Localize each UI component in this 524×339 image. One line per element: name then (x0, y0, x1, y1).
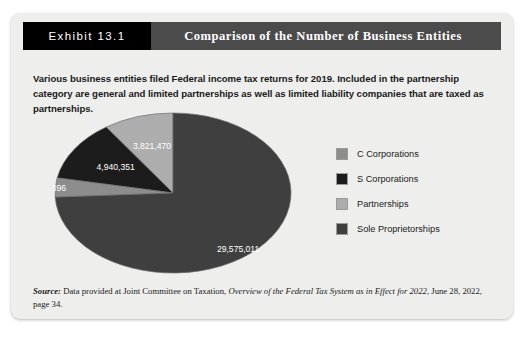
exhibit-title: Comparison of the Number of Business Ent… (184, 29, 462, 44)
pie-legend: C Corporations S Corporations Partnershi… (336, 141, 501, 241)
legend-item-s-corporations[interactable]: S Corporations (336, 166, 501, 191)
pie-slice-value-partnerships: 3,821,470 (133, 141, 171, 151)
legend-swatch-c-corporations (336, 148, 348, 160)
pie-slice-value-s-corporations: 4,940,351 (97, 162, 135, 172)
exhibit-number-label: Exhibit 13.1 (49, 30, 126, 42)
legend-label-partnerships: Partnerships (357, 199, 409, 209)
source-note-publication-title: Overview of the Federal Tax System as in… (228, 286, 427, 296)
legend-label-c-corporations: C Corporations (357, 149, 419, 159)
pie-chart-svg: 3,821,4704,940,3511,533,39629,575,011 (53, 111, 323, 276)
pie-chart: 3,821,4704,940,3511,533,39629,575,011 (53, 111, 323, 276)
legend-swatch-sole-proprietorships (336, 223, 348, 235)
intro-paragraph: Various business entities filed Federal … (33, 71, 501, 116)
chart-region: 3,821,4704,940,3511,533,39629,575,011 C … (23, 111, 501, 276)
legend-item-partnerships[interactable]: Partnerships (336, 191, 501, 216)
exhibit-title-block: Comparison of the Number of Business Ent… (151, 22, 501, 50)
pie-slice-value-sole-proprietorships: 29,575,011 (217, 244, 260, 254)
legend-item-sole-proprietorships[interactable]: Sole Proprietorships (336, 216, 501, 241)
source-note: Source: Data provided at Joint Committee… (33, 285, 495, 310)
exhibit-card: Exhibit 13.1 Comparison of the Number of… (11, 13, 513, 319)
source-note-text-before: Data provided at Joint Committee on Taxa… (61, 286, 228, 296)
exhibit-number-block: Exhibit 13.1 (23, 22, 151, 50)
legend-swatch-s-corporations (336, 173, 348, 185)
legend-item-c-corporations[interactable]: C Corporations (336, 141, 501, 166)
pie-slice-value-c-corporations: 1,533,396 (53, 183, 66, 193)
source-note-label: Source: (33, 286, 61, 296)
legend-label-s-corporations: S Corporations (357, 174, 418, 184)
legend-swatch-partnerships (336, 198, 348, 210)
legend-label-sole-proprietorships: Sole Proprietorships (357, 224, 440, 234)
exhibit-header-bar: Exhibit 13.1 Comparison of the Number of… (23, 22, 501, 50)
